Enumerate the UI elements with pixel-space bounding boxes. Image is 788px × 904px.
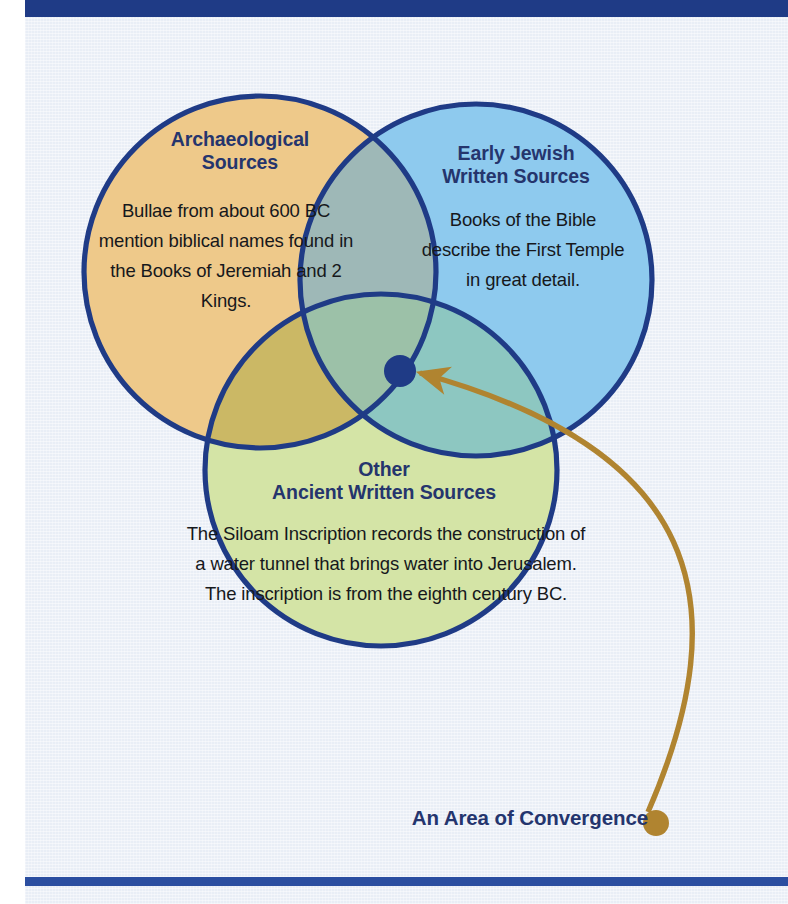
text-other-ancient-body: The Siloam Inscription records the const… [186,519,586,609]
venn-diagram-graphic [0,0,788,904]
triple-intersection-dot [384,355,416,387]
page-canvas: Archaeological Sources Bullae from about… [0,0,788,904]
text-early-jewish-body: Books of the Bible describe the First Te… [420,205,626,295]
label-early-jewish-written-sources: Early Jewish Written Sources [404,142,628,188]
label-archaeological-line2: Sources [120,151,360,174]
venn-diagram: Archaeological Sources Bullae from about… [0,0,788,904]
label-archaeological-sources: Archaeological Sources [120,128,360,174]
label-other-ancient-written-sources: Other Ancient Written Sources [236,458,532,504]
label-other-ancient-line1: Other [236,458,532,481]
label-early-jewish-line2: Written Sources [404,165,628,188]
bottom-divider-rule [25,877,788,886]
top-header-bar [25,0,788,17]
text-archaeological-body: Bullae from about 600 BC mention biblica… [92,196,360,316]
label-an-area-of-convergence: An Area of Convergence [318,806,648,830]
label-other-ancient-line2: Ancient Written Sources [236,481,532,504]
label-archaeological-line1: Archaeological [120,128,360,151]
label-early-jewish-line1: Early Jewish [404,142,628,165]
